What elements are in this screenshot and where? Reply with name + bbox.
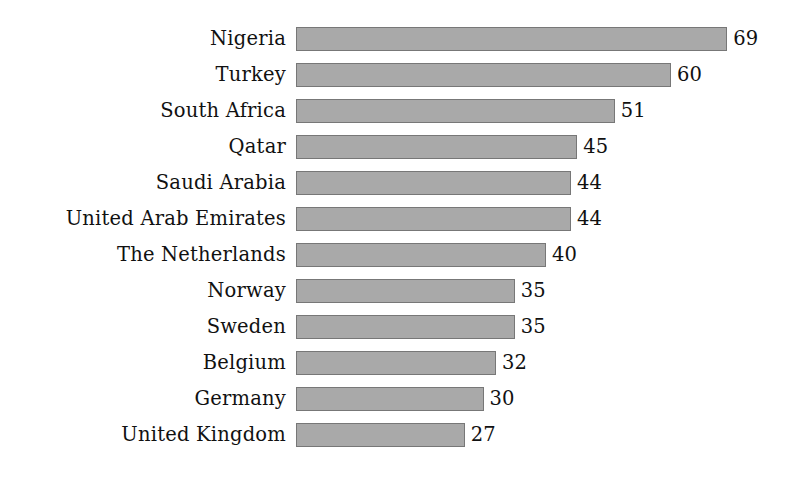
bar-track <box>296 135 577 159</box>
bar-track <box>296 315 515 339</box>
bar <box>296 135 577 159</box>
plot-area: Nigeria69Turkey60South Africa51Qatar45Sa… <box>0 0 795 477</box>
bar-category-label: United Kingdom <box>0 423 286 447</box>
bar-row: United Kingdom27 <box>0 423 795 447</box>
bar <box>296 207 571 231</box>
bar-track <box>296 351 496 375</box>
bar-category-label: Norway <box>0 279 286 303</box>
bar-value-label: 51 <box>615 99 646 123</box>
bar-category-label: Saudi Arabia <box>0 171 286 195</box>
bar <box>296 99 615 123</box>
bar-value-label: 60 <box>671 63 702 87</box>
bar <box>296 387 484 411</box>
bar-category-label: Qatar <box>0 135 286 159</box>
bar-value-label: 35 <box>515 279 546 303</box>
bar-value-label: 35 <box>515 315 546 339</box>
bar-category-label: United Arab Emirates <box>0 207 286 231</box>
bar-row: United Arab Emirates44 <box>0 207 795 231</box>
bar-row: Norway35 <box>0 279 795 303</box>
bar-value-label: 32 <box>496 351 527 375</box>
bar-value-label: 40 <box>546 243 577 267</box>
bar-value-label: 27 <box>465 423 496 447</box>
bar <box>296 351 496 375</box>
bar-track <box>296 243 546 267</box>
bar-value-label: 30 <box>484 387 515 411</box>
bar <box>296 423 465 447</box>
bar <box>296 243 546 267</box>
bar-category-label: Sweden <box>0 315 286 339</box>
bar-category-label: The Netherlands <box>0 243 286 267</box>
bar-row: Saudi Arabia44 <box>0 171 795 195</box>
bar-row: South Africa51 <box>0 99 795 123</box>
bar-track <box>296 171 571 195</box>
bar <box>296 27 727 51</box>
bar-track <box>296 423 465 447</box>
bar-track <box>296 99 615 123</box>
bar-category-label: Belgium <box>0 351 286 375</box>
bar-category-label: Nigeria <box>0 27 286 51</box>
bar-chart: Nigeria69Turkey60South Africa51Qatar45Sa… <box>0 0 795 477</box>
bar-row: Sweden35 <box>0 315 795 339</box>
bar-track <box>296 27 727 51</box>
bar-row: Turkey60 <box>0 63 795 87</box>
bar-value-label: 44 <box>571 171 602 195</box>
bar-track <box>296 207 571 231</box>
bar <box>296 63 671 87</box>
bar-track <box>296 63 671 87</box>
bar-category-label: Turkey <box>0 63 286 87</box>
bar-row: Belgium32 <box>0 351 795 375</box>
bar-value-label: 44 <box>571 207 602 231</box>
bar-category-label: Germany <box>0 387 286 411</box>
bar <box>296 279 515 303</box>
bar-track <box>296 387 484 411</box>
bar-row: The Netherlands40 <box>0 243 795 267</box>
bar-track <box>296 279 515 303</box>
bar-row: Germany30 <box>0 387 795 411</box>
bar <box>296 315 515 339</box>
bar-category-label: South Africa <box>0 99 286 123</box>
bar <box>296 171 571 195</box>
bar-value-label: 69 <box>727 27 758 51</box>
bar-value-label: 45 <box>577 135 608 159</box>
bar-row: Nigeria69 <box>0 27 795 51</box>
bar-row: Qatar45 <box>0 135 795 159</box>
